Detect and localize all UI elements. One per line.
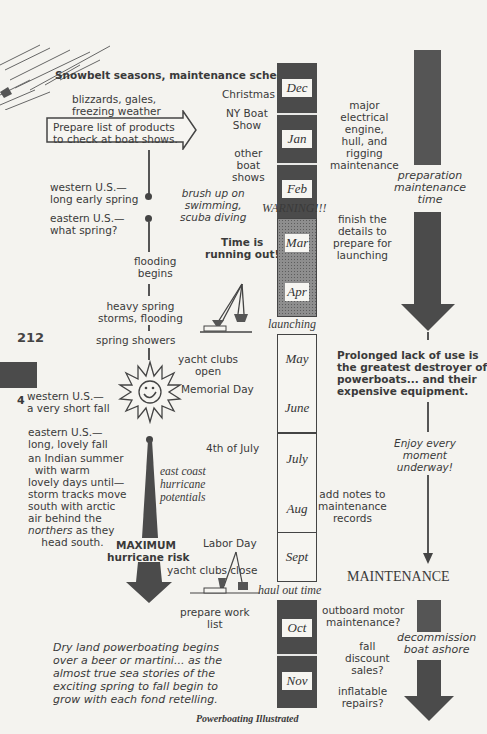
dry-land-note: Dry land powerboating begins over a beer… [53, 641, 222, 706]
memorial-day-label: Memorial Day [181, 383, 254, 395]
yacht-clubs-open-label: yacht clubs open [178, 353, 238, 377]
chapter-number: 4 [17, 394, 25, 407]
fall-sales-note: fall discount sales? [345, 640, 390, 676]
decommission-label: decommission boat ashore [397, 632, 476, 656]
max-risk-label: MAXIMUM [116, 539, 176, 551]
arrow-head-icon [422, 553, 434, 565]
month-jan: Jan [277, 115, 317, 163]
diagram-title: Snowbelt seasons, maintenance schedule. [55, 69, 306, 81]
boat-lift-crane-icon [200, 282, 260, 334]
timeline-line [148, 222, 150, 252]
work-list-note: prepare work list [180, 606, 250, 630]
indian-summer-note: an Indian summer with warm lovely days u… [28, 452, 127, 524]
inflatable-note: inflatable repairs? [338, 685, 387, 709]
page-number: 212 [17, 330, 44, 345]
down-arrow-icon [125, 562, 173, 604]
flooding-note: flooding begins [134, 255, 176, 279]
month-may: May [277, 334, 317, 384]
western-fall-note: western U.S.— a very short fall [27, 390, 110, 414]
month-nov: Nov [277, 656, 317, 706]
timeline-line [148, 325, 150, 331]
timeline-dot-icon [145, 215, 152, 222]
month-aug: Aug [277, 484, 317, 534]
month-mar: Mar [277, 218, 317, 268]
finish-details-note: finish the details to prepare for launch… [333, 213, 392, 261]
other-shows-label: other boat shows [232, 147, 265, 183]
month-july: July [277, 433, 317, 485]
brush-up-note: brush up on swimming, scuba diving [180, 187, 246, 223]
christmas-label: Christmas [222, 88, 275, 100]
western-spring-note: western U.S.— long early spring [50, 181, 138, 205]
month-june: June [277, 383, 317, 433]
month-sept: Sept [277, 532, 317, 582]
smiling-sun-icon [118, 360, 182, 424]
enjoy-note: Enjoy every moment underway! [394, 437, 456, 473]
timeline-line [148, 348, 150, 360]
decommission-bar [417, 600, 441, 632]
eastern-fall-note: eastern U.S.— long, lovely fall [28, 426, 108, 450]
warning-label: WARNING!!! [262, 201, 326, 216]
eastern-spring-note: eastern U.S.— what spring? [50, 212, 125, 236]
launching-label: launching [268, 317, 316, 332]
footer-credit: Powerboating Illustrated [196, 713, 299, 724]
month-apr: Apr [277, 267, 317, 317]
flow-line [427, 475, 429, 555]
flow-line [427, 332, 429, 340]
hurricane-wedge-icon [140, 440, 160, 538]
prep-arrow-shaft [414, 50, 441, 165]
haul-out-label: haul out time [258, 583, 321, 598]
down-arrow-icon [400, 212, 456, 332]
timeline-line [148, 284, 150, 296]
month-oct: Oct [277, 603, 317, 653]
time-running-note: Time is running out! [205, 236, 279, 260]
ny-boat-show-label: NY Boat Show [226, 107, 268, 131]
spring-showers-note: spring showers [96, 334, 175, 346]
hurricane-potentials-note: east coast hurricane potentials [160, 465, 206, 504]
major-maintenance-note: major electrical engine, hull, and riggi… [330, 99, 399, 171]
chapter-tab [0, 362, 37, 388]
timeline-line [148, 150, 150, 194]
add-notes-note: add notes to maintenance records [318, 488, 387, 524]
july-4th-label: 4th of July [206, 442, 259, 454]
month-dec: Dec [277, 63, 317, 113]
outboard-note: outboard motor maintenance? [322, 604, 404, 628]
northers-note: northers as they head south. [28, 524, 114, 548]
prep-time-label: preparation maintenance time [394, 170, 466, 206]
heavy-spring-note: heavy spring storms, flooding [98, 300, 183, 324]
down-arrow-icon [403, 660, 455, 722]
timeline-dot-icon [145, 193, 152, 200]
flow-line [427, 402, 429, 432]
prepare-list-note: Prepare list of products to check at boa… [53, 121, 178, 145]
prolonged-note: Prolonged lack of use is the greatest de… [337, 349, 487, 397]
maintenance-label: MAINTENANCE [347, 569, 450, 585]
